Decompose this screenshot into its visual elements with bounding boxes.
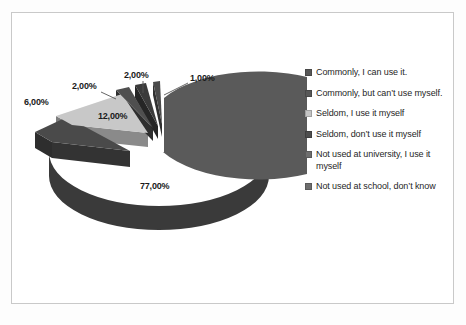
slice-77-top — [163, 71, 307, 179]
data-label-12-percent: 12,00% — [98, 111, 127, 121]
legend-item-not-used-university[interactable]: Not used at university, I use it myself — [305, 149, 455, 172]
legend-item-label: Not used at school, don’t know — [316, 181, 436, 193]
legend-item-commonly-can-use[interactable]: Commonly, I can use it. — [305, 67, 455, 79]
data-label-6-percent: 6,00% — [24, 97, 49, 107]
legend-swatch-icon — [305, 131, 312, 138]
legend-swatch-icon — [305, 69, 312, 76]
legend-item-seldom-use-myself[interactable]: Seldom, I use it myself — [305, 108, 455, 120]
legend-item-label: Seldom, don’t use it myself — [316, 129, 421, 141]
legend-item-label: Commonly, but can’t use myself. — [316, 88, 442, 100]
pie-chart-plot-area: 6,00% 2,00% 2,00% 1,00% 12,00% 77,00% — [12, 13, 307, 303]
legend-swatch-icon — [305, 110, 312, 117]
data-label-2a-percent: 2,00% — [72, 81, 97, 91]
legend-item-label: Seldom, I use it myself — [316, 108, 404, 120]
legend-swatch-icon — [305, 151, 312, 158]
legend-swatch-icon — [305, 183, 312, 190]
legend-item-label: Commonly, I can use it. — [316, 67, 407, 79]
chart-frame: 6,00% 2,00% 2,00% 1,00% 12,00% 77,00% Co… — [11, 12, 454, 304]
legend-item-not-used-school[interactable]: Not used at school, don’t know — [305, 181, 455, 193]
legend-item-commonly-cant-use[interactable]: Commonly, but can’t use myself. — [305, 88, 455, 100]
pie-chart-graphic — [12, 13, 307, 303]
legend-item-seldom-dont-use[interactable]: Seldom, don’t use it myself — [305, 129, 455, 141]
legend-item-label: Not used at university, I use it myself — [316, 149, 455, 172]
chart-legend: Commonly, I can use it. Commonly, but ca… — [305, 67, 455, 202]
data-label-1-percent: 1,00% — [190, 73, 215, 83]
data-label-77-percent: 77,00% — [140, 181, 169, 191]
data-label-2b-percent: 2,00% — [124, 70, 149, 80]
legend-swatch-icon — [305, 90, 312, 97]
